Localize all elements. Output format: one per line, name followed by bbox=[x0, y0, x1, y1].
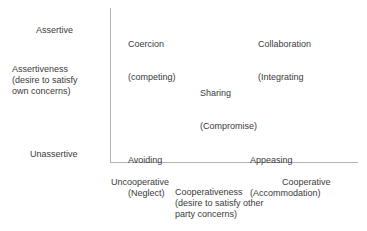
style-sharing-name: Sharing bbox=[200, 88, 257, 99]
x-axis-high-label: Cooperative bbox=[282, 177, 331, 188]
y-axis-title: Assertiveness (desire to satisfy own con… bbox=[12, 64, 78, 97]
style-coercion-alt: (competing) bbox=[128, 72, 176, 83]
style-collaboration-alt: (Integrating bbox=[258, 72, 311, 83]
style-appeasing-name: Appeasing bbox=[250, 155, 321, 166]
x-axis-low-label: Uncooperative bbox=[111, 177, 169, 188]
style-sharing: Sharing (Compromise) bbox=[200, 66, 257, 143]
style-sharing-alt: (Compromise) bbox=[200, 121, 257, 132]
y-axis-low-label: Unassertive bbox=[30, 149, 78, 160]
style-collaboration-name: Collaboration bbox=[258, 39, 311, 50]
style-coercion: Coercion (competing) bbox=[128, 17, 176, 94]
x-axis-title: Cooperativeness (desire to satisfy other… bbox=[175, 187, 264, 220]
style-collaboration: Collaboration (Integrating bbox=[258, 17, 311, 94]
style-avoiding: Avoiding (Neglect) bbox=[128, 133, 165, 210]
y-axis-high-label: Assertive bbox=[36, 25, 73, 36]
style-coercion-name: Coercion bbox=[128, 39, 176, 50]
style-avoiding-alt: (Neglect) bbox=[128, 188, 165, 199]
y-axis-line bbox=[110, 8, 111, 163]
style-avoiding-name: Avoiding bbox=[128, 155, 165, 166]
